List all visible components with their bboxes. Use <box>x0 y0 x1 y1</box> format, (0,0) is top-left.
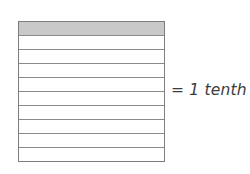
figure-canvas: = 1 tenth <box>0 0 250 174</box>
tenths-row-1 <box>19 22 164 36</box>
tenths-row-10 <box>19 148 164 161</box>
legend-key: = 1 tenth <box>171 80 247 100</box>
tenths-bar-model <box>18 21 165 162</box>
tenths-row-6 <box>19 92 164 106</box>
tenths-row-9 <box>19 134 164 148</box>
tenths-row-7 <box>19 106 164 120</box>
tenths-row-4 <box>19 64 164 78</box>
tenths-row-8 <box>19 120 164 134</box>
tenths-row-3 <box>19 50 164 64</box>
tenths-row-2 <box>19 36 164 50</box>
legend-label: = 1 tenth <box>171 81 247 99</box>
tenths-row-5 <box>19 78 164 92</box>
